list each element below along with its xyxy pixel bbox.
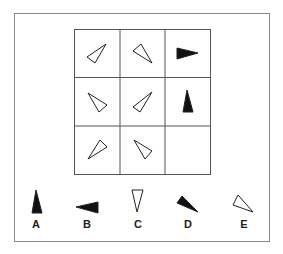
triangle-icon <box>88 140 107 159</box>
option-e[interactable] <box>233 195 253 212</box>
triangle-icon <box>76 202 98 213</box>
missing-cell <box>166 127 210 174</box>
puzzle-canvas <box>0 0 283 254</box>
triangle-icon <box>134 140 152 159</box>
triangle-icon <box>177 48 198 59</box>
option-label[interactable]: A <box>28 218 44 230</box>
option-label[interactable]: C <box>130 218 146 230</box>
option-label[interactable]: E <box>236 218 252 230</box>
option-b[interactable] <box>76 202 98 213</box>
option-d[interactable] <box>177 196 198 212</box>
triangle-icon <box>233 195 253 212</box>
triangle-icon <box>32 190 42 213</box>
option-label[interactable]: D <box>180 218 196 230</box>
triangle-icon <box>132 190 143 212</box>
answer-options <box>32 190 253 213</box>
triangle-icon <box>87 44 106 63</box>
triangle-icon <box>177 196 198 212</box>
triangle-icon <box>133 44 152 63</box>
triangle-icon <box>88 93 107 112</box>
option-label[interactable]: B <box>79 218 95 230</box>
option-c[interactable] <box>132 190 143 212</box>
option-a[interactable] <box>32 190 42 213</box>
triangle-icon <box>183 90 193 112</box>
triangle-icon <box>133 92 152 112</box>
